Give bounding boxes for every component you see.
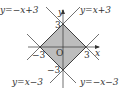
tick-y-pos: 3 [55, 20, 61, 30]
tick-x-pos: 3 [84, 50, 90, 60]
origin-label: O [56, 48, 63, 58]
equation-label-neg-x-plus-3: y=−x+3 [0, 5, 39, 15]
equation-label-neg-x-minus-3: y=−x−3 [79, 77, 119, 87]
y-axis-label: y [57, 7, 64, 17]
tick-y-neg: −3 [47, 65, 61, 75]
tick-x-neg: −3 [32, 50, 46, 60]
equation-label-x-plus-3: y=x+3 [79, 5, 111, 15]
x-axis-label: x [95, 48, 100, 58]
equation-label-x-minus-3: y=x−3 [11, 77, 43, 87]
coordinate-diagram: y x O 3 −3 −3 3 y=−x+3 y=x+3 y=x−3 y=−x−… [0, 0, 133, 94]
